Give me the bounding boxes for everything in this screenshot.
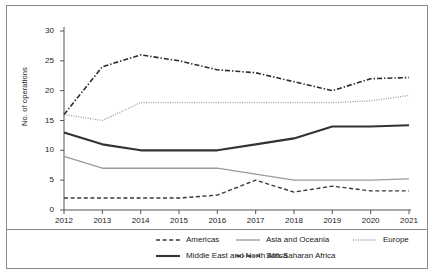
line-chart-svg [0, 0, 434, 229]
x-tick-label: 2017 [239, 216, 273, 225]
legend-item[interactable]: Asia and Oceania [235, 233, 329, 247]
x-tick-label: 2019 [315, 216, 349, 225]
legend-item-label: Americas [186, 235, 219, 245]
legend-item[interactable]: Sub-Saharan Africa [235, 249, 335, 263]
x-tick-label: 2014 [124, 216, 158, 225]
chart-legend: AmericasMiddle East and North AfricaAsia… [7, 230, 427, 268]
y-tick-label: 25 [32, 56, 54, 65]
y-tick-label: 5 [32, 175, 54, 184]
x-tick-label: 2021 [392, 216, 426, 225]
y-tick-label: 30 [32, 26, 54, 35]
series-line [64, 95, 409, 120]
plot-area: No. of operations 051015202530 201220132… [0, 0, 434, 229]
x-tick-label: 2012 [47, 216, 81, 225]
x-tick-label: 2020 [354, 216, 388, 225]
series-line [64, 156, 409, 180]
x-tick-label: 2016 [200, 216, 234, 225]
y-tick-label: 0 [32, 205, 54, 214]
y-tick-label: 20 [32, 86, 54, 95]
x-tick-label: 2013 [85, 216, 119, 225]
series-line [64, 55, 409, 115]
legend-swatch-solid-icon [155, 251, 181, 261]
legend-item[interactable]: Europe [352, 233, 409, 247]
chart-figure: No. of operations 051015202530 201220132… [0, 0, 434, 275]
legend-item-label: Sub-Saharan Africa [266, 251, 335, 261]
x-tick-label: 2015 [162, 216, 196, 225]
legend-item-label: Europe [383, 235, 409, 245]
legend-item[interactable]: Americas [155, 233, 219, 247]
legend-swatch-dotted-icon [352, 235, 378, 245]
legend-swatch-dashed-icon [155, 235, 181, 245]
series-line [64, 125, 409, 150]
legend-swatch-solid-icon [235, 235, 261, 245]
y-axis-label: No. of operations [20, 42, 29, 152]
y-tick-label: 10 [32, 145, 54, 154]
x-tick-label: 2018 [277, 216, 311, 225]
legend-item-label: Asia and Oceania [266, 235, 329, 245]
series-line [64, 180, 409, 198]
y-tick-label: 15 [32, 116, 54, 125]
legend-swatch-dashdot-icon [235, 251, 261, 261]
